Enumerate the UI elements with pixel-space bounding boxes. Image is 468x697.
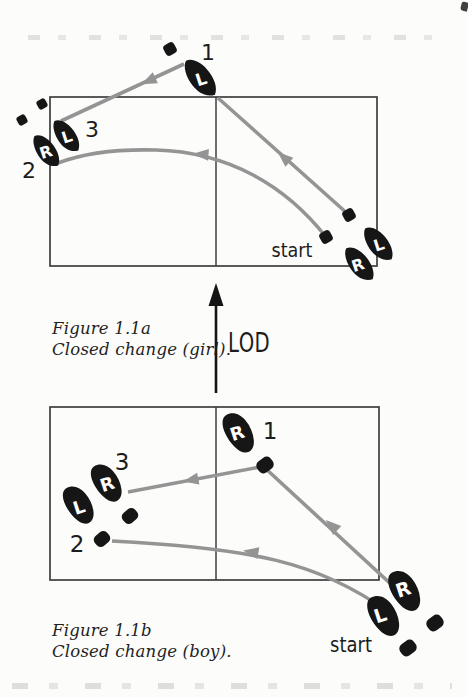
girl-arrow-to-2-icon [193,148,209,161]
book-page: L L R L R 1 3 2 start LOD [0,0,468,697]
girl-start-label: start [272,238,313,262]
girl-caption: Figure 1.1a Closed change (girl). [52,318,272,360]
boy-floor-box [50,407,379,580]
boy-start-left-heel-icon [397,637,419,658]
girl-step2-number: 2 [22,158,36,183]
boy-step2-heel-icon [92,529,113,549]
boy-caption-figure-number: Figure 1.1b [52,620,272,641]
girl-arrow-to-3-icon [139,72,158,89]
boy-path-start-to-1 [265,468,406,598]
boy-caption-title: Closed change (boy). [52,641,272,662]
girl-step1-heel-icon [160,39,181,60]
boy-arrow-to-2-icon [242,545,259,560]
girl-caption-figure-number: Figure 1.1a [52,318,272,339]
lod-arrow-head-icon [209,283,224,306]
girl-step2-heel-icon [14,112,31,129]
boy-step3-heel-icon [120,506,141,526]
girl-caption-title: Closed change (girl). [52,339,272,360]
boy-start-right-heel-icon [424,612,446,633]
boy-step1-number: 1 [263,418,278,444]
girl-step1-number: 1 [201,40,215,65]
girl-diagram: L L R L R 1 3 2 start [14,39,399,286]
girl-step3-heel-icon [34,96,51,113]
boy-step2-number: 2 [70,531,85,557]
girl-step3-number: 3 [85,117,99,142]
boy-start-label: start [330,632,372,657]
girl-path-1-to-3 [61,64,184,121]
boy-caption: Figure 1.1b Closed change (boy). [52,620,272,662]
boy-step1-heel-icon [254,454,276,475]
boy-step3-number: 3 [115,449,130,475]
